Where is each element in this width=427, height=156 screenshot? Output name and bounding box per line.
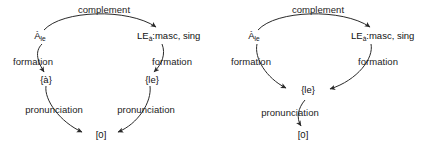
node-le-masc-sing-right-main: LE: [351, 30, 363, 41]
node-a-le-left: Àle: [34, 30, 45, 42]
edge-complement-right: [258, 14, 370, 30]
node-zero-left: [0]: [96, 129, 107, 140]
edge-label-formation-a-left: formation: [13, 56, 53, 67]
figure-canvas: complement Àle LEà:masc, sing formation …: [0, 0, 427, 156]
node-le-masc-sing-left: LEà:masc, sing: [137, 30, 200, 42]
node-le-masc-sing-right-tail: :masc, sing: [366, 30, 414, 41]
edge-label-formation-le-left: formation: [152, 56, 192, 67]
node-brace-a-left: {à}: [40, 74, 52, 85]
node-le-masc-sing-left-main: LE: [137, 30, 149, 41]
node-le-masc-sing-left-sub: à: [149, 35, 153, 42]
node-brace-le-left: {le}: [145, 74, 159, 85]
edge-label-pronunciation-le-left: pronunciation: [117, 104, 175, 115]
node-le-masc-sing-right: LEà:masc, sing: [351, 30, 414, 42]
node-a-le-right-sub: le: [255, 35, 260, 42]
node-brace-le-right: {le}: [301, 84, 315, 95]
node-zero-right: [0]: [298, 129, 309, 140]
node-le-masc-sing-left-tail: :masc, sing: [152, 30, 200, 41]
edge-label-pronunciation-a-left: pronunciation: [25, 104, 83, 115]
node-a-le-right: Àle: [248, 30, 259, 42]
edge-label-formation-right-right: formation: [358, 56, 398, 67]
edge-label-pronunciation-right: pronunciation: [261, 107, 319, 118]
edge-complement-left: [44, 14, 156, 30]
edge-label-complement-left: complement: [78, 4, 130, 15]
edge-label-complement-right: complement: [292, 4, 344, 15]
edge-label-formation-left-right: formation: [231, 56, 271, 67]
edge-layer: [0, 0, 427, 156]
node-le-masc-sing-right-sub: à: [363, 35, 367, 42]
node-a-le-left-sub: le: [41, 35, 46, 42]
